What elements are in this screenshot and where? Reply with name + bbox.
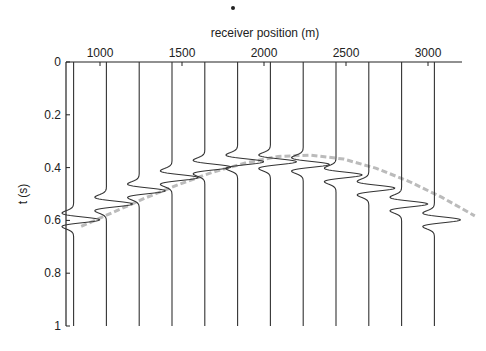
seismic-trace: [128, 62, 166, 326]
stray-dot: [231, 6, 235, 10]
seismic-trace: [324, 62, 362, 326]
seismic-trace: [292, 62, 330, 326]
x-axis-label: receiver position (m): [211, 26, 320, 40]
y-tick-label: 1: [54, 319, 61, 333]
y-tick-label: 0.8: [44, 266, 61, 280]
y-tick-label: 0.2: [44, 108, 61, 122]
x-tick-label: 1000: [87, 46, 114, 60]
y-axis-label: t (s): [16, 184, 30, 205]
seismic-trace: [95, 62, 132, 326]
y-tick-label: 0.6: [44, 213, 61, 227]
x-tick-label: 3000: [415, 46, 442, 60]
x-ticks: 10001500200025003000: [87, 46, 442, 66]
seismic-trace: [193, 62, 231, 326]
x-tick-label: 2500: [333, 46, 360, 60]
seismic-trace-chart: receiver position (m) 100015002000250030…: [0, 0, 486, 351]
traveltime-curve: [81, 155, 475, 226]
seismic-trace: [390, 62, 428, 326]
y-tick-label: 0: [54, 55, 61, 69]
seismic-trace: [357, 62, 395, 326]
seismic-trace: [423, 62, 461, 326]
x-tick-label: 1500: [169, 46, 196, 60]
traveltime-hyperbola: [81, 155, 475, 226]
y-tick-label: 0.4: [44, 161, 61, 175]
seismic-trace: [259, 62, 297, 326]
x-tick-label: 2000: [251, 46, 278, 60]
wiggle-traces: [62, 62, 460, 326]
seismic-trace: [62, 62, 100, 326]
seismic-trace: [226, 62, 264, 326]
seismic-trace: [160, 62, 198, 326]
